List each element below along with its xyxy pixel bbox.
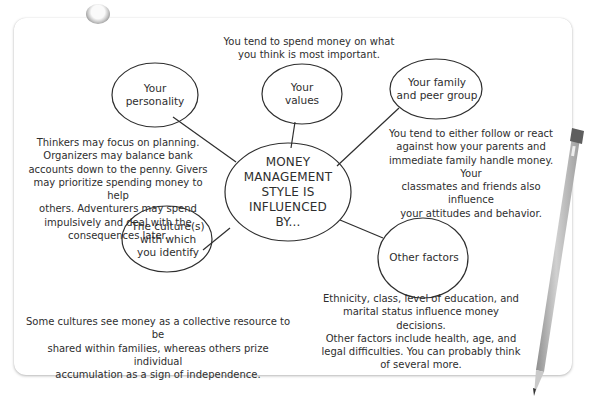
node-culture: The culture(s) with which you identify [124,210,212,268]
node-personality: Your personality [114,70,196,120]
description-family: You tend to either follow or react again… [378,127,564,220]
node-family: Your family and peer group [392,64,482,114]
node-other: Other factors [380,236,468,278]
pin-decoration [86,4,110,24]
description-other: Ethnicity, class, level of education, an… [318,292,524,372]
description-culture: Some cultures see money as a collective … [24,315,292,381]
center-node: MONEY MANAGEMENT STYLE IS INFLUENCED BY.… [226,144,350,240]
node-values: Your values [264,70,340,118]
description-values: You tend to spend money on what you thin… [216,35,402,62]
